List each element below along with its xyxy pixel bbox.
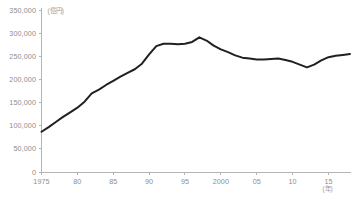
line-chart: 050,000100,000150,000200,000250,000300,0…	[0, 0, 361, 200]
chart-container: 050,000100,000150,000200,000250,000300,0…	[0, 0, 361, 200]
x-tick-label: 1975	[33, 177, 49, 186]
y-tick-label: 100,000	[9, 121, 36, 130]
y-tick-label: 50,000	[13, 144, 36, 153]
y-tick-label: 350,000	[9, 6, 36, 15]
x-tick-label: 80	[73, 177, 81, 186]
x-tick-label: 05	[253, 177, 261, 186]
y-axis-tick-labels: 050,000100,000150,000200,000250,000300,0…	[9, 6, 36, 177]
x-axis-unit-label: (年)	[322, 184, 332, 193]
data-series-line	[42, 37, 351, 131]
x-axis-tick-labels: 1975808590952000051015	[33, 177, 332, 186]
x-tick-label: 90	[145, 177, 153, 186]
y-tick-label: 250,000	[9, 52, 36, 61]
y-tick-label: 0	[32, 168, 36, 177]
y-tick-label: 150,000	[9, 98, 36, 107]
x-tick-label: 2000	[213, 177, 229, 186]
x-tick-label: 95	[181, 177, 189, 186]
x-tick-label: 10	[289, 177, 297, 186]
y-axis-unit-label: (億円)	[48, 6, 64, 15]
y-tick-label: 200,000	[9, 75, 36, 84]
x-tick-label: 85	[109, 177, 117, 186]
y-tick-label: 300,000	[9, 29, 36, 38]
